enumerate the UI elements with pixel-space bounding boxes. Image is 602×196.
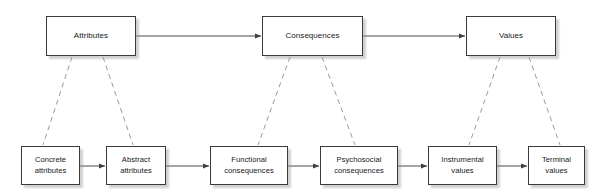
node-attributes[interactable]: Attributes — [46, 16, 136, 56]
node-functional-consequences[interactable]: Functional consequences — [210, 146, 288, 185]
node-instrumental-values[interactable]: Instrumental values — [428, 146, 497, 185]
dashed-link-attributes-to-abstract — [103, 57, 133, 145]
node-label-instrumental-values: Instrumental values — [439, 155, 485, 175]
node-label-attributes: Attributes — [72, 31, 110, 42]
node-consequences[interactable]: Consequences — [262, 16, 363, 56]
node-label-concrete-attributes: Concrete attributes — [33, 155, 69, 175]
dashed-link-values-to-instrumental — [469, 57, 500, 145]
node-label-psychosocial-consequences: Psychosocial consequences — [332, 155, 386, 175]
dashed-link-consequences-to-functional — [258, 57, 290, 145]
dashed-link-attributes-to-concrete — [43, 57, 72, 145]
node-label-abstract-attributes: Abstract attributes — [118, 155, 154, 175]
dashed-link-consequences-to-psychosocial — [322, 57, 355, 145]
dashed-link-values-to-terminal — [529, 57, 560, 145]
node-terminal-values[interactable]: Terminal values — [528, 146, 585, 185]
node-values[interactable]: Values — [466, 16, 556, 56]
node-label-consequences: Consequences — [284, 31, 342, 42]
node-abstract-attributes[interactable]: Abstract attributes — [106, 146, 166, 185]
node-concrete-attributes[interactable]: Concrete attributes — [21, 146, 80, 185]
node-label-values: Values — [497, 31, 525, 42]
node-label-functional-consequences: Functional consequences — [222, 155, 276, 175]
node-psychosocial-consequences[interactable]: Psychosocial consequences — [320, 146, 398, 185]
dashed-connectors — [43, 57, 560, 145]
node-label-terminal-values: Terminal values — [540, 155, 573, 175]
means-end-chain-diagram: AttributesConsequencesValues Concrete at… — [0, 0, 602, 196]
